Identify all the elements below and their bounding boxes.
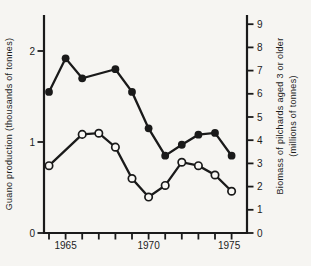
guano-production-marker-1974: [211, 129, 219, 137]
pilchard-biomass-marker-1969: [128, 175, 135, 182]
pilchard-biomass-marker-1972: [178, 159, 185, 166]
chart-figure: 1965197019750120123456789 Guano producti…: [0, 0, 311, 266]
x-tick-label: 1975: [218, 240, 241, 251]
chart-canvas: 1965197019750120123456789 Guano producti…: [0, 0, 311, 266]
left-axis-title: Guano production (thousands of tonnes): [4, 38, 14, 211]
pilchard-biomass-marker-1967: [95, 130, 102, 137]
pilchard-biomass-marker-1975: [228, 188, 235, 195]
guano-production-marker-1970: [145, 124, 153, 132]
guano-production-marker-1969: [128, 88, 136, 96]
guano-production-marker-1966: [78, 74, 86, 82]
x-tick-label: 1970: [137, 240, 160, 251]
right-axis-tick-label: 5: [257, 112, 263, 123]
axes-layer: 1965197019750120123456789: [29, 15, 263, 251]
pilchard-biomass-marker-1973: [195, 162, 202, 169]
right-axis-tick-label: 1: [257, 204, 263, 215]
left-axis-tick-label: 0: [29, 228, 35, 239]
left-axis-tick-label: 1: [29, 137, 35, 148]
pilchard-biomass-marker-1970: [145, 193, 152, 200]
guano-production-marker-1964: [45, 88, 53, 96]
right-axis-title-line2: (millions of tonnes): [288, 75, 298, 157]
right-axis-tick-label: 9: [257, 19, 263, 30]
right-axis-tick-label: 8: [257, 42, 263, 53]
pilchard-biomass-marker-1964: [45, 162, 52, 169]
right-axis-tick-label: 3: [257, 158, 263, 169]
guano-production-marker-1971: [161, 152, 169, 160]
pilchard-biomass-marker-1971: [162, 182, 169, 189]
x-tick-label: 1965: [54, 240, 77, 251]
guano-production-marker-1972: [178, 141, 186, 149]
guano-production-marker-1965: [62, 54, 70, 62]
left-axis-tick-label: 2: [29, 46, 35, 57]
pilchard-biomass-marker-1966: [79, 131, 86, 138]
pilchard-biomass-marker-1974: [211, 171, 218, 178]
right-axis-tick-label: 0: [257, 228, 263, 239]
right-axis-tick-label: 4: [257, 135, 263, 146]
guano-production-marker-1973: [195, 131, 203, 139]
right-axis-tick-label: 2: [257, 181, 263, 192]
right-axis-title-line1: Biomass of pilchards aged 3 or older: [275, 38, 285, 195]
pilchard-biomass-line: [49, 133, 232, 197]
right-axis-tick-label: 7: [257, 65, 263, 76]
right-axis-tick-label: 6: [257, 88, 263, 99]
series-layer: [45, 54, 235, 200]
pilchard-biomass-marker-1968: [112, 143, 119, 150]
guano-production-marker-1968: [112, 65, 120, 73]
guano-production-marker-1975: [228, 152, 236, 160]
